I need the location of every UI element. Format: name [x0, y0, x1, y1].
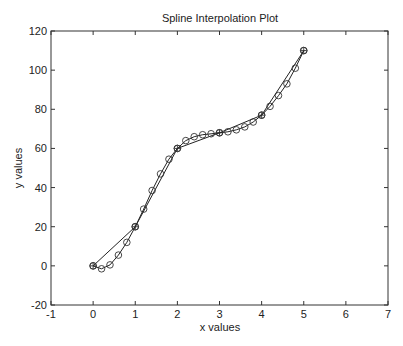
x-tick-label: 4: [259, 308, 265, 320]
x-tick-label: 1: [132, 308, 138, 320]
chart: Spline Interpolation Plot -101234567 -20…: [0, 0, 403, 346]
y-tick-label: 80: [35, 103, 47, 115]
x-axis-label: x values: [200, 321, 241, 333]
y-tick-label: 120: [29, 25, 47, 37]
x-tick-label: -1: [46, 308, 56, 320]
y-tick-label: 100: [29, 64, 47, 76]
x-tick-label: 5: [301, 308, 307, 320]
y-tick-label: 40: [35, 182, 47, 194]
x-tick-label: 2: [174, 308, 180, 320]
plot-frame: [51, 31, 388, 305]
x-tick-label: 0: [90, 308, 96, 320]
y-axis-label: y values: [12, 147, 24, 188]
plot-area: [51, 31, 388, 305]
chart-title: Spline Interpolation Plot: [162, 12, 278, 24]
y-tick-label: 20: [35, 221, 47, 233]
y-tick-label: -20: [31, 299, 47, 311]
y-tick-label: 0: [41, 260, 47, 272]
x-tick-label: 7: [385, 308, 391, 320]
y-tick-label: 60: [35, 142, 47, 154]
x-tick-label: 6: [343, 308, 349, 320]
x-tick-label: 3: [216, 308, 222, 320]
